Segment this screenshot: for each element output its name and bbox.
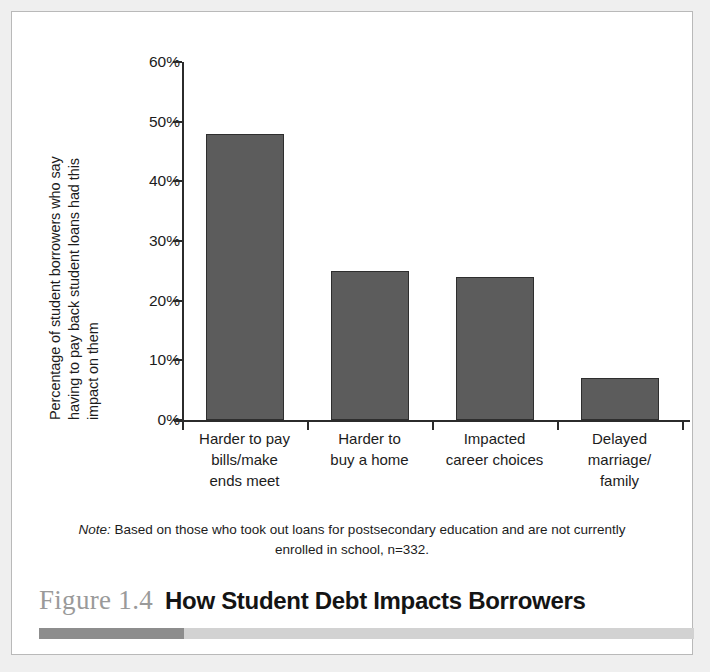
bar-chart: Percentage of student borrowers who say … [12,12,692,512]
note-label: Note: [78,522,110,537]
chart-note: Note: Based on those who took out loans … [72,520,632,560]
figure-page: Percentage of student borrowers who say … [0,0,710,672]
y-tick-mark [173,180,182,182]
bar [456,277,534,420]
figure-title: How Student Debt Impacts Borrowers [165,587,586,615]
figure-frame: Percentage of student borrowers who say … [11,11,693,655]
note-text: Based on those who took out loans for po… [111,522,626,557]
x-axis-label-line: marriage/ [557,449,682,470]
caption-rule-dark-segment [39,628,184,639]
x-axis-label: Harder tobuy a home [307,428,432,470]
y-tick-mark [173,61,182,63]
x-axis-label: Delayedmarriage/family [557,428,682,491]
y-tick-mark [173,419,182,421]
x-axis-label-line: career choices [432,449,557,470]
caption-rule-light-segment [184,628,694,639]
figure-caption: Figure 1.4 How Student Debt Impacts Borr… [39,585,679,619]
x-axis-label: Impactedcareer choices [432,428,557,470]
figure-number: Figure 1.4 [39,585,153,616]
x-axis-label-line: Harder to pay [182,428,307,449]
y-tick-mark [173,300,182,302]
x-axis-category-labels: Harder to paybills/makeends meetHarder t… [182,428,682,508]
bar [206,134,284,420]
x-axis-label: Harder to paybills/makeends meet [182,428,307,491]
bar [331,271,409,420]
y-tick-mark [173,359,182,361]
y-axis-title-line-1: Percentage of student borrowers who say [47,156,63,420]
x-tick-mark [682,422,684,430]
plot-area [182,62,682,420]
x-axis-label-line: Harder to [307,428,432,449]
y-axis-title-line-3: impact on them [85,322,101,420]
y-axis-title: Percentage of student borrowers who say … [60,42,140,422]
x-axis-label-line: Delayed [557,428,682,449]
y-axis-title-line-2: having to pay back student loans had thi… [66,158,82,420]
x-axis-label-line: ends meet [182,470,307,491]
x-axis-label-line: Impacted [432,428,557,449]
caption-rule [39,628,694,639]
y-tick-mark [173,121,182,123]
x-axis-label-line: bills/make [182,449,307,470]
x-axis-label-line: buy a home [307,449,432,470]
y-tick-mark [173,240,182,242]
bar-series [182,62,682,420]
y-axis-tick-labels: 0%10%20%30%40%50%60% [132,52,180,432]
x-axis-label-line: family [557,470,682,491]
bar [581,378,659,420]
